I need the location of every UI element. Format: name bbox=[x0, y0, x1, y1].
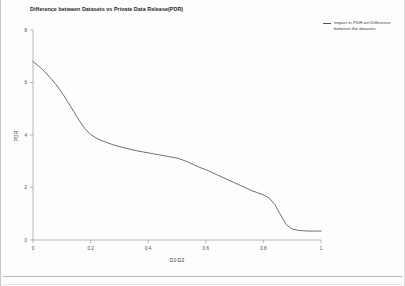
x-tick-label: 1 bbox=[320, 246, 323, 251]
legend-line-swatch bbox=[323, 23, 331, 24]
y-tick-label: 6 bbox=[24, 80, 27, 85]
chart-plot-area: 02468 00.20.40.60.81 D1-D2 PDR bbox=[1, 0, 405, 286]
x-tick-label: 0.8 bbox=[260, 246, 267, 251]
y-tick-label: 4 bbox=[24, 133, 27, 138]
x-axis-ticks: 00.20.40.60.81 bbox=[32, 240, 323, 251]
page-bottom-rule bbox=[3, 276, 402, 277]
y-axis-title: PDR bbox=[13, 130, 19, 141]
x-tick-label: 0.4 bbox=[145, 246, 152, 251]
y-tick-label: 8 bbox=[24, 28, 27, 33]
line-chart-svg: 02468 00.20.40.60.81 D1-D2 PDR bbox=[1, 0, 405, 286]
page-bottom-rule-secondary bbox=[3, 284, 402, 285]
y-tick-label: 0 bbox=[24, 238, 27, 243]
y-tick-label: 2 bbox=[24, 185, 27, 190]
legend-entry-label: Impact in PDR wrt Difference between the… bbox=[334, 20, 401, 32]
data-series-line bbox=[33, 62, 321, 232]
x-tick-label: 0.6 bbox=[203, 246, 210, 251]
axes-group bbox=[33, 30, 321, 240]
x-tick-label: 0 bbox=[32, 246, 35, 251]
chart-legend: Impact in PDR wrt Difference between the… bbox=[323, 20, 401, 32]
x-tick-label: 0.2 bbox=[87, 246, 94, 251]
document-page: Difference between Datasets vs Private D… bbox=[0, 0, 405, 286]
x-axis-title: D1-D2 bbox=[170, 257, 185, 263]
y-axis-ticks: 02468 bbox=[24, 28, 33, 243]
